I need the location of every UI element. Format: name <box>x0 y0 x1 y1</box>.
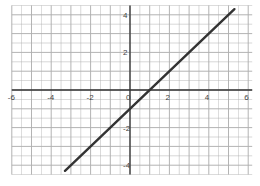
y-tick-label: 2 <box>123 48 128 57</box>
x-tick-label: -6 <box>8 93 16 102</box>
x-tick-label: 2 <box>165 93 170 102</box>
axes <box>12 5 252 174</box>
coordinate-graph: -6-4-2024642-2-4 <box>0 0 260 186</box>
x-tick-label: -4 <box>47 93 55 102</box>
x-tick-label: 6 <box>244 93 249 102</box>
x-tick-label: 4 <box>205 93 210 102</box>
x-tick-label: 0 <box>126 93 131 102</box>
y-tick-label: -4 <box>123 161 131 170</box>
y-tick-label: -2 <box>123 124 131 133</box>
x-tick-label: -2 <box>87 93 95 102</box>
y-tick-label: 4 <box>123 11 128 20</box>
